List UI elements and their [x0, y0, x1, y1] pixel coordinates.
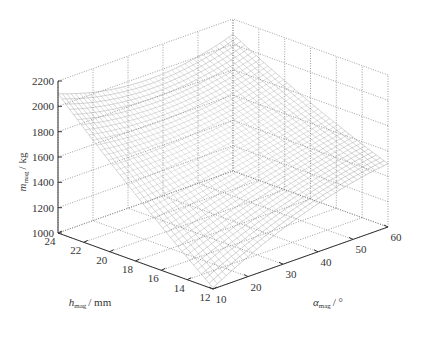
- mesh-line-const-alpha: [106, 90, 261, 245]
- mesh-line-const-alpha: [198, 57, 353, 183]
- z-tick-label: 1200: [32, 202, 55, 214]
- h-tick-label: 12: [200, 291, 211, 303]
- h-tick-mark: [110, 250, 114, 252]
- h-tick-label: 14: [174, 282, 186, 294]
- h-tick-label: 20: [96, 254, 108, 266]
- z-tick-label: 1800: [32, 126, 55, 138]
- z-axis-label: mmag/ kg: [16, 152, 30, 191]
- h-tick-label: 22: [70, 244, 81, 256]
- mesh-line-const-alpha: [102, 91, 257, 249]
- mesh-line-const-h: [58, 34, 233, 94]
- alpha-tick-label: 30: [286, 268, 298, 280]
- h-tick-label: 18: [122, 263, 134, 275]
- h-tick-label: 24: [45, 235, 57, 247]
- alpha-tick-mark: [244, 275, 248, 277]
- mesh-line-const-h: [167, 128, 342, 233]
- alpha-tick-mark: [279, 262, 283, 264]
- right-wall-gridline: [233, 44, 388, 100]
- alpha-tick-label: 40: [321, 256, 333, 268]
- z-tick-label: 1400: [32, 176, 55, 188]
- mesh-line-const-h: [136, 103, 311, 195]
- h-tick-label: 16: [148, 272, 160, 284]
- h-tick-mark: [187, 278, 191, 280]
- mesh-line-const-alpha: [71, 94, 226, 276]
- x-axis-label: αmag/ °: [313, 296, 343, 310]
- alpha-tick-label: 60: [391, 231, 403, 243]
- mesh-line-const-h: [128, 96, 303, 185]
- alpha-tick-mark: [314, 250, 318, 252]
- surface-mesh: [58, 34, 388, 288]
- back-wall-gridline: [58, 44, 233, 106]
- z-tick-label: 1600: [32, 151, 55, 163]
- mesh-line-const-alpha: [58, 94, 213, 288]
- mesh-line-const-h: [66, 41, 241, 104]
- z-tick-label: 2200: [32, 75, 55, 87]
- alpha-tick-label: 10: [216, 293, 228, 305]
- mesh-line-const-h: [163, 125, 338, 228]
- mesh-line-const-alpha: [202, 54, 357, 180]
- alpha-tick-mark: [384, 225, 388, 227]
- tick-labels: 1000120014001600180020002200121416182022…: [32, 75, 402, 305]
- h-tick-mark: [84, 240, 88, 242]
- floor-gridline: [136, 199, 311, 261]
- back-wall-gridline: [58, 171, 233, 233]
- back-wall-gridline: [58, 19, 233, 81]
- h-tick-mark: [136, 259, 140, 261]
- floor-gridline: [198, 183, 353, 239]
- alpha-tick-label: 20: [251, 281, 263, 293]
- axes-layer: [58, 81, 388, 289]
- mesh-line-const-alpha: [84, 93, 239, 264]
- surface-plot: 1000120014001600180020002200121416182022…: [0, 0, 434, 341]
- mesh-line-const-h: [74, 49, 249, 115]
- mesh-line-const-alpha: [229, 37, 384, 166]
- h-tick-mark: [161, 268, 165, 270]
- y-axis-label: hmag/ mm: [69, 296, 112, 310]
- alpha-tick-label: 50: [356, 243, 368, 255]
- z-tick-label: 2000: [32, 100, 55, 112]
- alpha-tick-mark: [349, 237, 353, 239]
